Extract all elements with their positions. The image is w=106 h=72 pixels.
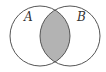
venn-diagram: A B	[0, 0, 106, 72]
set-a-label: A	[23, 10, 33, 24]
set-b-label: B	[76, 10, 86, 24]
